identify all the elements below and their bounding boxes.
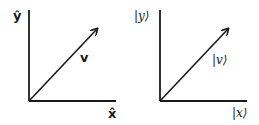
y-ket-label: |y⟩ [134, 9, 150, 23]
right-diagram: |y⟩ |v⟩ |x⟩ [134, 9, 248, 120]
y-axis-label: ŷ [13, 8, 22, 23]
vector-arrow [29, 29, 97, 101]
x-ket-label: |x⟩ [232, 106, 248, 120]
vector-ket-label: |v⟩ [212, 53, 228, 67]
left-diagram: ŷ v x̂ [13, 8, 117, 121]
vector-label: v [80, 50, 89, 65]
x-axis-label: x̂ [108, 106, 117, 121]
diagram-canvas: ŷ v x̂ |y⟩ |v⟩ |x⟩ [0, 0, 259, 125]
